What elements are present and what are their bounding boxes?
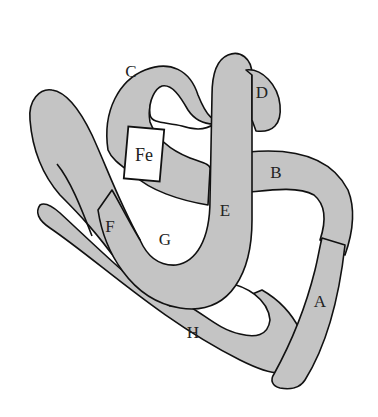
- globin-fold-svg: Fe C D B E F G A H: [0, 0, 378, 417]
- heme-group: Fe: [124, 127, 164, 182]
- label-h: H: [187, 323, 199, 342]
- label-b: B: [270, 163, 281, 182]
- label-c: C: [125, 62, 136, 81]
- helix-b: [248, 151, 352, 255]
- protein-diagram: Fe C D B E F G A H: [0, 0, 378, 417]
- label-d: D: [256, 83, 268, 102]
- heme-iron-label: Fe: [135, 145, 153, 165]
- label-f: F: [105, 217, 114, 236]
- label-e: E: [220, 201, 230, 220]
- label-a: A: [314, 292, 327, 311]
- label-g: G: [159, 230, 171, 249]
